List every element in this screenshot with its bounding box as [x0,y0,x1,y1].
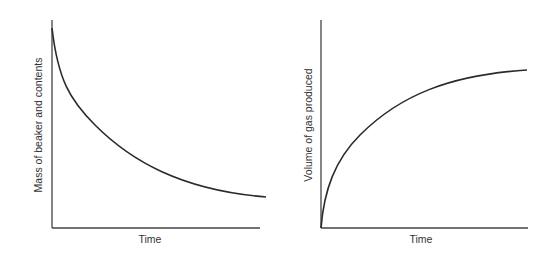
mass-x-label: Time [139,233,162,245]
mass-curve [52,28,266,197]
gas-y-label: Volume of gas produced [302,68,314,181]
gas-volume-curve [321,70,527,228]
gas-volume-chart: Time Volume of gas produced [302,20,528,245]
gas-x-label: Time [410,233,433,245]
mass-y-label: Mass of beaker and contents [32,58,44,193]
charts-canvas: Time Mass of beaker and contents Time Vo… [0,0,560,257]
mass-chart: Time Mass of beaker and contents [32,20,266,245]
